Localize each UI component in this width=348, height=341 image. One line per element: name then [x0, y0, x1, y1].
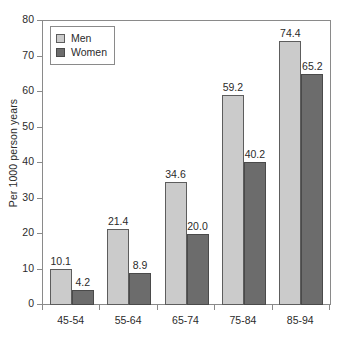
bar-women-75-84: [244, 162, 266, 305]
y-tick-label: 70: [22, 49, 34, 61]
bar-value-label: 20.0: [181, 220, 215, 232]
bar-value-label: 40.2: [238, 148, 272, 160]
x-tick-label: 45-54: [42, 314, 99, 326]
bar-chart: Per 1000 person years 01020304050607080 …: [0, 0, 348, 341]
bar-value-label: 74.4: [273, 27, 307, 39]
bar-men-65-74: [165, 182, 187, 305]
bar-value-label: 59.2: [216, 81, 250, 93]
bar-men-75-84: [222, 95, 244, 305]
bar-value-label: 34.6: [159, 168, 193, 180]
y-tick-label: 20: [22, 226, 34, 238]
y-tick-label: 30: [22, 191, 34, 203]
x-axis-ticks: 45-5455-6465-7475-8485-94: [42, 305, 332, 341]
legend: Men Women: [50, 26, 115, 65]
legend-item-men: Men: [56, 32, 107, 45]
x-tick-mark: [42, 305, 43, 310]
y-tick-label: 60: [22, 84, 34, 96]
x-tick-label: 65-74: [157, 314, 214, 326]
x-tick-label: 85-94: [272, 314, 329, 326]
bar-women-45-54: [72, 290, 94, 305]
x-tick-mark: [99, 305, 100, 310]
y-tick-label: 50: [22, 120, 34, 132]
legend-label-women: Women: [71, 47, 107, 58]
bar-women-85-94: [301, 74, 323, 305]
bar-women-65-74: [187, 234, 209, 305]
bar-value-label: 65.2: [295, 60, 329, 72]
bar-value-label: 8.9: [123, 259, 157, 271]
legend-item-women: Women: [56, 46, 107, 59]
legend-swatch-men-icon: [56, 34, 65, 43]
x-tick-mark: [272, 305, 273, 310]
x-tick-label: 55-64: [99, 314, 156, 326]
bar-men-85-94: [279, 41, 301, 305]
x-tick-mark: [214, 305, 215, 310]
bar-value-label: 10.1: [44, 255, 78, 267]
y-tick-label: 10: [22, 262, 34, 274]
bar-women-55-64: [129, 273, 151, 305]
y-tick-label: 0: [28, 297, 34, 309]
y-tick-label: 40: [22, 155, 34, 167]
x-tick-mark: [329, 305, 330, 310]
y-tick-label: 80: [22, 13, 34, 25]
bar-value-label: 4.2: [66, 276, 100, 288]
x-tick-mark: [157, 305, 158, 310]
legend-swatch-women-icon: [56, 48, 65, 57]
x-tick-label: 75-84: [214, 314, 271, 326]
legend-label-men: Men: [71, 33, 91, 44]
bar-value-label: 21.4: [101, 215, 135, 227]
y-axis-ticks: 01020304050607080: [0, 20, 42, 306]
